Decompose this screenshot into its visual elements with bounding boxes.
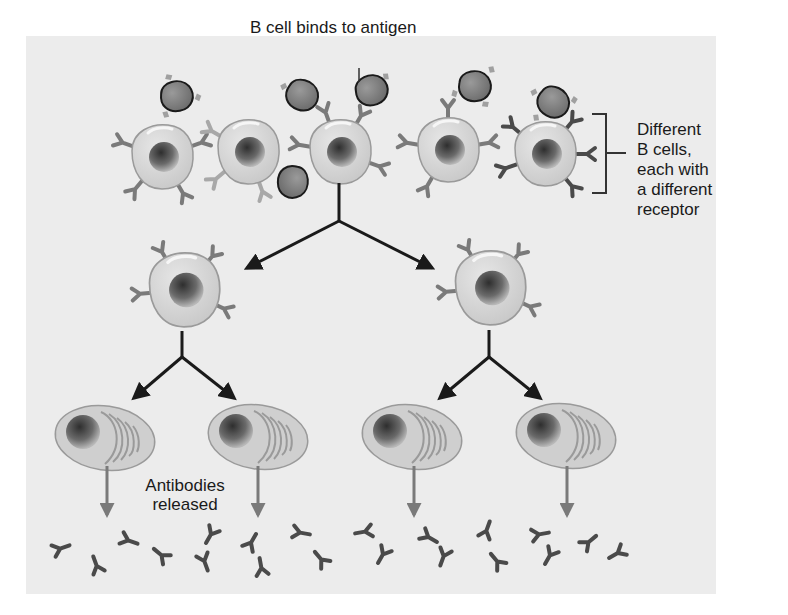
antibody-label-line: Antibodies [135,476,235,495]
antibody-label-line: released [135,495,235,514]
bracket [592,114,626,193]
antigen-bound-3 [275,164,310,201]
arrows-split-1 [247,183,432,268]
b-cell-1 [113,125,211,204]
clone-cell-1 [132,242,234,327]
arrows-split-2 [134,330,540,398]
b-cell-2 [202,120,279,201]
antigen-bound-2 [350,65,399,111]
side-label-line: each with [637,160,757,180]
b-cell-4 [398,100,499,196]
side-label-line: a different [637,180,757,200]
antigen-2 [446,63,506,116]
b-cell-diagram [0,0,788,615]
clone-cell-2 [438,240,540,325]
antigen-bound-1 [276,76,321,113]
plasma-cell-1 [51,399,159,476]
antibodies-released-label: Antibodies released [135,476,235,514]
b-cell-5 [496,112,595,196]
different-b-cells-label: Different B cells, each with a different… [637,120,757,220]
plasma-cell-2 [204,398,312,475]
binding-label: B cell binds to antigen [250,18,416,38]
antigen-1 [148,65,205,121]
side-label-line: receptor [637,200,757,220]
plasma-cell-4 [512,397,620,474]
side-label-line: Different [637,120,757,140]
plasma-cell-3 [358,398,466,475]
antibodies [51,519,626,575]
side-label-line: B cells, [637,140,757,160]
